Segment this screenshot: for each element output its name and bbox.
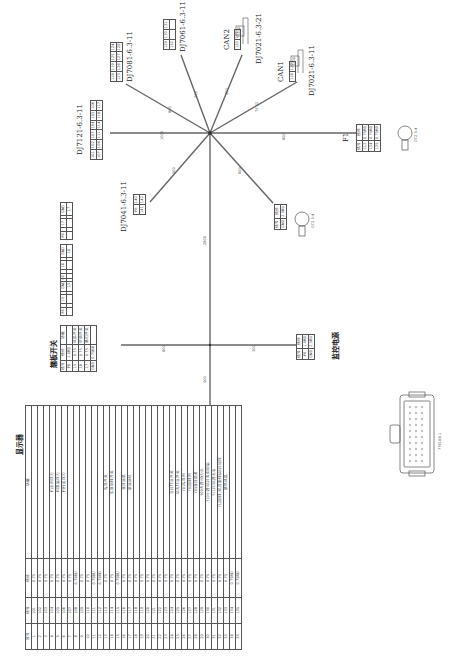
table-cell: 135	[236, 597, 242, 623]
length-label-dj7121: 1000	[160, 131, 164, 140]
length-label-base-switch: 800	[162, 345, 166, 352]
f1-table: 线号线径 1120.75RD 1340.75RD 1350.75RD	[356, 124, 381, 152]
table-cell: 35	[236, 623, 242, 649]
switch-connector-3: F615GND 15	[60, 278, 73, 316]
length-label-dj7061: 300	[194, 91, 198, 98]
can2-resistor: 120Ω	[237, 26, 241, 36]
connector-dj7121: 101102103104105106 107108111114116117	[90, 100, 103, 160]
base-switch-title: 翘板开关	[48, 340, 58, 368]
length-label-monitor-power: 300	[252, 345, 256, 352]
can1-resistor: 120Ω	[292, 56, 296, 66]
length-label-can1: 75.22	[255, 102, 259, 112]
length-label-gnd: 600	[238, 167, 242, 174]
connector-dj7061: 129130131 132	[163, 19, 176, 50]
table-cell	[236, 406, 242, 559]
connector-dj7081: 118119125124 123126127128	[110, 42, 123, 82]
length-label-f1: 800	[282, 133, 286, 140]
f1-label: F1	[342, 133, 350, 142]
f1-terminal-label: OT2.5-4	[414, 128, 418, 142]
monitor-power-table: 线号线径 F61.0RD GND2.5BU	[296, 334, 315, 360]
length-label-trunk: 2800	[203, 236, 207, 245]
connector-label-dj7061: DJ7061-6.3-11	[179, 1, 187, 52]
display-title: 显示器	[14, 434, 24, 455]
connector-label-dj7121: DJ7121-6.3-11	[76, 104, 84, 155]
switch-connector-1: F617GND 17	[60, 202, 73, 240]
length-label-display: 500	[203, 376, 207, 383]
gnd-terminal-label: OT2.5-4	[311, 214, 315, 228]
can1-label: CAN1	[277, 61, 285, 82]
connector-label-dj7081: DJ7081-6.3-11	[126, 31, 134, 82]
length-label-dj7081: 800	[168, 106, 172, 113]
connector-dj7041: F6140 141142	[133, 194, 146, 215]
connector-label-can2-model: DJ7021-6.3-21	[255, 13, 263, 64]
connector-label-dj7041: DJ7041-6.3-11	[120, 181, 128, 232]
length-label-can2: 200	[225, 88, 229, 95]
can2-label: CAN2	[223, 29, 231, 50]
switch-connector-2: F616GND 16	[60, 244, 73, 282]
length-label-dj7041: 500	[172, 167, 176, 174]
monitor-power-title: 监控电源	[330, 332, 340, 360]
display-table: 序号线号线径功能11010.7521020.7531030.7541040.75…	[25, 405, 242, 650]
connector-label-can1-model: DJ7021-6.3-11	[308, 45, 316, 96]
base-switch-table: 线号线径功能 F61.0RD 150.75风扇开关 160.75空调开关 170…	[60, 325, 97, 372]
table-row: 351350.75RD	[236, 406, 242, 650]
plug-label: 776164-1	[438, 433, 442, 450]
table-cell: 0.75RD	[236, 559, 242, 598]
gnd-table: 线号线径 GND2.5BU	[274, 204, 287, 230]
